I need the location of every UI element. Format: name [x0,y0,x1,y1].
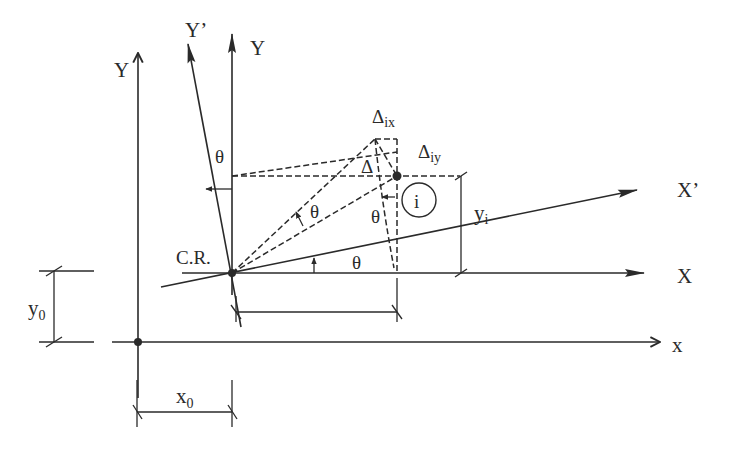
delta-label: Δ [361,156,373,177]
rotated-y-label: Y’ [185,18,207,42]
dimensions [39,172,467,427]
x0-label: x0 [176,384,194,411]
delta-iy-label: Δiy [418,141,441,165]
labels: Y x Y Y’ X X’ C.R. i Δix Δiy Δ θ θ θ θ y… [28,18,699,411]
local-y-label: Y [250,36,265,60]
point-i-label: i [414,191,419,212]
global-x-label: x [672,333,683,357]
delta-ix-label: Δix [372,106,395,130]
rotated-x-label: X’ [677,178,699,202]
y0-label: y0 [28,296,46,323]
rotated-vertical-line [375,139,394,268]
rotated-y-axis [188,44,241,327]
theta-label-x: θ [352,252,361,273]
theta-arrow-radius [296,212,303,226]
origin-point [134,338,142,346]
angle-markers [206,189,395,273]
global-axes [112,53,660,398]
local-axes [161,34,644,327]
local-x-label: X [677,264,692,288]
yi-label: yi [474,201,489,227]
center-of-rigidity-label: C.R. [176,247,211,268]
theta-label-radius: θ [310,201,319,222]
theta-label-i: θ [371,206,380,227]
theta-label-y: θ [215,146,224,167]
global-y-label: Y [114,58,129,82]
rotation-diagram: Y x Y Y’ X X’ C.R. i Δix Δiy Δ θ θ θ θ y… [0,0,731,453]
point-i-marker [393,172,402,181]
